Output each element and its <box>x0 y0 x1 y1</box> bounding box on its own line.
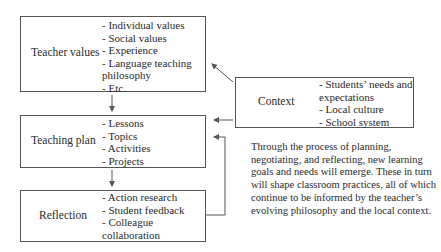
teacher-values-box: Teacher values - Individual values - Soc… <box>20 16 206 92</box>
list-item: - Lessons <box>102 117 151 130</box>
explanation-paragraph: Through the process of planning, negotia… <box>251 141 439 217</box>
reflection-items: - Action research - Student feedback - C… <box>102 191 184 241</box>
teacher-values-items: - Individual values - Social values - Ex… <box>102 19 192 95</box>
teacher-values-title: Teacher values <box>31 46 99 58</box>
list-item: - Topics <box>102 130 151 143</box>
teaching-plan-items: - Lessons - Topics - Activities - Projec… <box>102 117 151 167</box>
list-item: - Language teaching <box>102 57 192 70</box>
list-item: - Student feedback <box>102 204 184 217</box>
list-item: - School system <box>319 116 413 129</box>
list-item: - Colleague <box>102 216 184 229</box>
list-item: - Projects <box>102 155 151 168</box>
teaching-plan-title: Teaching plan <box>31 134 96 146</box>
list-item: - Local culture <box>319 103 413 116</box>
teaching-plan-box: Teaching plan - Lessons - Topics - Activ… <box>20 115 206 168</box>
list-item: - Etc. <box>102 82 192 95</box>
list-item: - Social values <box>102 32 192 45</box>
list-item: expectations <box>319 91 413 104</box>
context-box: Context - Students’ needs and expectatio… <box>235 77 414 128</box>
list-item: - Individual values <box>102 19 192 32</box>
context-title: Context <box>258 95 294 107</box>
list-item: - Experience <box>102 44 192 57</box>
reflection-box: Reflection - Action research - Student f… <box>20 190 206 242</box>
list-item: philosophy <box>102 69 192 82</box>
list-item: - Activities <box>102 142 151 155</box>
context-items: - Students’ needs and expectations - Loc… <box>319 78 413 128</box>
list-item: collaboration <box>102 229 184 242</box>
arrow-reflection-to-plan <box>206 137 225 215</box>
list-item: - Students’ needs and <box>319 78 413 91</box>
list-item: - Action research <box>102 191 184 204</box>
reflection-title: Reflection <box>39 209 87 221</box>
arrow-context-to-teacher <box>212 64 233 82</box>
